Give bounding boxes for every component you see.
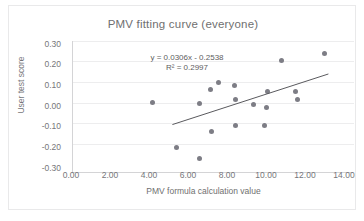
trendline-equation: y = 0.0306x - 0.2538 <box>127 53 247 63</box>
y-axis-title: User test score <box>16 40 26 130</box>
scatter-point <box>295 97 300 102</box>
y-tick-label: -0.20 <box>27 142 61 152</box>
scatter-point <box>264 105 269 110</box>
scatter-point <box>174 145 179 150</box>
gridline-0.00 <box>73 103 354 104</box>
trendline-annotation: y = 0.0306x - 0.2538 R² = 0.2997 <box>127 53 247 73</box>
y-tick-label: 0.30 <box>27 39 61 49</box>
y-tick-label: 0.20 <box>27 59 61 69</box>
chart-title: PMV fitting curve (everyone) <box>9 18 357 30</box>
x-tick-label: 0.00 <box>51 170 91 180</box>
x-axis-ticks: 0.00 2.00 4.00 6.00 8.00 10.00 12.00 14.… <box>0 170 364 184</box>
x-axis-title: PMV formula calculation value <box>63 186 344 196</box>
x-tick-label: 8.00 <box>207 170 247 180</box>
gridline--0.10 <box>73 123 354 124</box>
y-tick-label: 0.00 <box>27 101 61 111</box>
scatter-point <box>209 129 214 134</box>
y-tick-label: -0.10 <box>27 121 61 131</box>
y-axis-ticks: 0.30 0.20 0.10 0.00 -0.10 -0.20 -0.30 <box>21 0 61 221</box>
scatter-point <box>293 89 298 94</box>
scatter-point <box>216 80 221 85</box>
x-tick-label: 4.00 <box>129 170 169 180</box>
scatter-point <box>197 156 202 161</box>
gridline-0.10 <box>73 82 354 83</box>
x-tick-label: 10.00 <box>246 170 286 180</box>
trendline-r-squared: R² = 0.2997 <box>127 63 247 73</box>
x-tick-label: 6.00 <box>168 170 208 180</box>
x-tick-label: 2.00 <box>90 170 130 180</box>
scatter-point <box>279 58 284 63</box>
scatter-point <box>262 123 267 128</box>
scatter-point <box>208 87 213 92</box>
y-tick-label: 0.10 <box>27 80 61 90</box>
scatter-point <box>233 97 238 102</box>
x-tick-label: 14.00 <box>324 170 364 180</box>
gridline--0.20 <box>73 144 354 145</box>
x-tick-label: 12.00 <box>285 170 325 180</box>
gridline-0.30 <box>73 41 354 42</box>
